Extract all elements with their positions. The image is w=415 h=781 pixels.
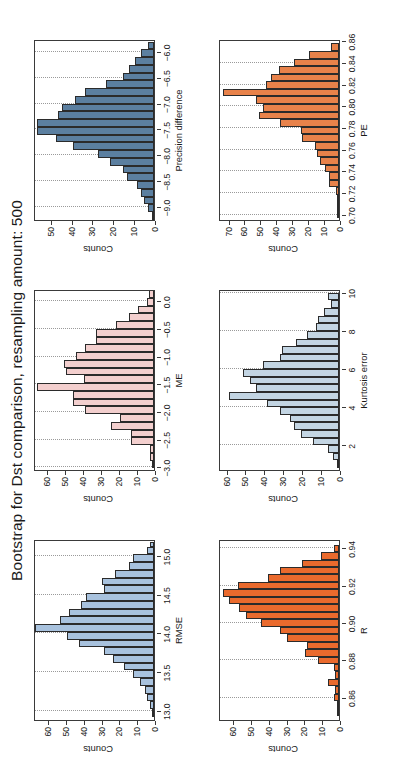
x-tick-label: 0.0 bbox=[162, 296, 172, 308]
y-tick-label: 0 bbox=[150, 477, 160, 503]
x-tick-label: 14.5 bbox=[162, 587, 172, 604]
y-axis-label-precision-difference: Counts bbox=[83, 244, 113, 255]
histogram-bar bbox=[96, 337, 154, 345]
histogram-bar bbox=[317, 150, 339, 158]
y-tickmark bbox=[48, 722, 49, 726]
histogram-bar bbox=[113, 655, 154, 663]
y-tick-label: 20 bbox=[299, 727, 309, 753]
histogram-bar bbox=[302, 134, 339, 142]
histogram-bar bbox=[307, 642, 339, 649]
x-tick-label: 13.5 bbox=[162, 665, 172, 682]
x-tick-label: 0.86 bbox=[347, 34, 357, 51]
y-tickmark bbox=[51, 222, 52, 226]
y-tickmark bbox=[92, 222, 93, 226]
histogram-bar bbox=[307, 331, 339, 339]
plot-area-r bbox=[219, 540, 340, 721]
x-axis-label-kurtosis-error: Kurtosis error bbox=[358, 290, 369, 471]
y-tick-label: 60 bbox=[228, 727, 238, 753]
y-tickmark bbox=[276, 222, 277, 226]
histogram-bar bbox=[223, 89, 339, 97]
y-axis-label-me: Counts bbox=[83, 494, 113, 505]
y-tick-label: 20 bbox=[303, 227, 313, 253]
y-tickmark bbox=[287, 722, 288, 726]
histogram-bar bbox=[152, 461, 154, 469]
histogram-bar bbox=[144, 197, 154, 205]
histogram-bar bbox=[229, 597, 339, 604]
y-tickmark bbox=[155, 472, 156, 476]
y-tickmark bbox=[322, 722, 323, 726]
x-tick-label: −7.0 bbox=[162, 96, 172, 113]
x-tickmark bbox=[342, 623, 346, 624]
y-tick-label: 10 bbox=[132, 477, 142, 503]
histogram-bar bbox=[147, 547, 154, 555]
y-tickmark bbox=[65, 472, 66, 476]
histogram-bar bbox=[79, 640, 154, 648]
histogram-bar bbox=[337, 701, 339, 708]
panel-pe: 0.700.720.740.760.780.800.820.840.860102… bbox=[215, 30, 370, 263]
x-tickmark bbox=[342, 128, 346, 129]
x-tickmark bbox=[157, 329, 161, 330]
histogram-bar bbox=[263, 361, 339, 369]
histogram-bar bbox=[290, 415, 339, 423]
plot-area-me bbox=[34, 290, 155, 471]
histogram-bar bbox=[129, 65, 154, 73]
x-axis-label-r: R bbox=[358, 540, 369, 721]
x-tickmark bbox=[157, 130, 161, 131]
histogram-bar bbox=[333, 453, 339, 461]
histogram-bar bbox=[296, 339, 339, 347]
y-axis-label-r: Counts bbox=[268, 744, 298, 755]
y-tickmark bbox=[229, 222, 230, 226]
histogram-bar bbox=[141, 49, 154, 57]
y-tick-label: 60 bbox=[43, 727, 53, 753]
histogram-bar bbox=[152, 709, 154, 717]
y-tickmark bbox=[251, 722, 252, 726]
x-tickmark bbox=[342, 63, 346, 64]
histogram-bar bbox=[337, 461, 339, 469]
y-tickmark bbox=[137, 472, 138, 476]
x-axis-label-precision-difference: Precision difference bbox=[173, 40, 184, 221]
y-tickmark bbox=[119, 722, 120, 726]
y-tickmark bbox=[227, 472, 228, 476]
y-tick-label: 20 bbox=[114, 727, 124, 753]
histogram-bar bbox=[147, 694, 154, 702]
x-tickmark bbox=[157, 467, 161, 468]
histogram-bar bbox=[331, 300, 339, 308]
y-tick-label: 50 bbox=[61, 727, 71, 753]
x-tickmark bbox=[157, 52, 161, 53]
x-tick-label: −2.5 bbox=[162, 432, 172, 449]
y-tickmark bbox=[233, 722, 234, 726]
histogram-bar bbox=[124, 663, 154, 671]
histogram-bar bbox=[223, 589, 339, 596]
histogram-bar bbox=[266, 81, 339, 89]
panel-precision-difference: −9.0−8.5−8.0−7.5−7.0−6.5−6.001020304050P… bbox=[30, 30, 185, 263]
x-tick-label: −1.5 bbox=[162, 377, 172, 394]
x-tickmark bbox=[157, 711, 161, 712]
x-tickmark bbox=[342, 586, 346, 587]
x-axis-label-pe: PE bbox=[358, 40, 369, 221]
histogram-bar bbox=[37, 383, 154, 391]
histogram-bar bbox=[150, 701, 154, 709]
x-axis-label-me: ME bbox=[173, 290, 184, 471]
x-tick-label: 14.0 bbox=[162, 626, 172, 643]
histogram-bar bbox=[137, 181, 154, 189]
histogram-bar bbox=[318, 316, 339, 324]
histogram-bar bbox=[335, 686, 339, 693]
panel-kurtosis-error: 2468100102030405060Kurtosis errorCounts bbox=[215, 280, 370, 513]
histogram-bar bbox=[56, 135, 154, 143]
histogram-bar bbox=[111, 422, 154, 430]
histogram-bar bbox=[334, 664, 339, 671]
plot-area-pe bbox=[219, 40, 340, 221]
histogram-bar bbox=[148, 42, 154, 50]
x-tick-label: −8.0 bbox=[162, 148, 172, 165]
histogram-bars-r bbox=[220, 541, 339, 720]
histogram-bar bbox=[138, 306, 154, 314]
x-tick-label: −0.5 bbox=[162, 321, 172, 338]
y-tick-label: 50 bbox=[46, 227, 56, 253]
histogram-bar bbox=[98, 150, 154, 158]
panel-r: 0.860.880.900.920.940102030405060RCounts bbox=[215, 530, 370, 763]
y-tick-label: 10 bbox=[319, 227, 329, 253]
x-tickmark bbox=[157, 357, 161, 358]
x-tick-label: 0.82 bbox=[347, 77, 357, 94]
x-tick-label: 6 bbox=[347, 368, 357, 373]
histogram-bar bbox=[115, 570, 154, 578]
